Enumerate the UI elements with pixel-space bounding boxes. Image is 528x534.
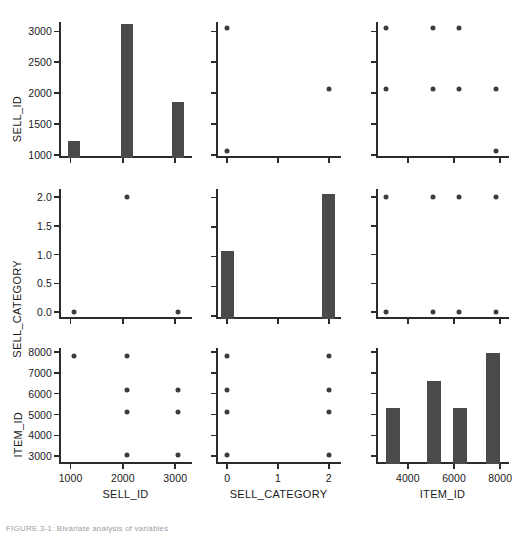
y-tick xyxy=(211,256,216,258)
x-tick-label: 3000 xyxy=(163,472,187,484)
scatter-point xyxy=(225,148,230,153)
x-axis-title: SELL_CATEGORY xyxy=(230,488,328,500)
plot-area xyxy=(376,189,509,319)
y-axis-line xyxy=(376,348,378,464)
panel-sell_category-vs-sell_id: 0.00.51.01.52.0SELL_CATEGORY xyxy=(59,189,192,319)
plot-area xyxy=(376,22,509,158)
scatter-point xyxy=(225,354,230,359)
scatter-point xyxy=(72,354,77,359)
scatter-point xyxy=(456,310,461,315)
x-tick-label: 0 xyxy=(224,472,230,484)
panel-sell_category-vs-sell_category xyxy=(216,189,341,319)
y-tick xyxy=(54,351,59,353)
y-axis-line xyxy=(376,22,378,158)
y-tick xyxy=(211,92,216,94)
x-tick-label: 2000 xyxy=(111,472,135,484)
x-tick xyxy=(453,158,455,163)
y-tick xyxy=(211,154,216,156)
scatter-point xyxy=(431,195,436,200)
y-tick-label: 1000 xyxy=(28,149,52,161)
scatter-point xyxy=(456,195,461,200)
y-tick xyxy=(371,414,376,416)
y-tick xyxy=(371,225,376,227)
x-tick xyxy=(70,158,72,163)
scatter-point xyxy=(326,354,331,359)
panel-sell_category-vs-item_id xyxy=(376,189,509,319)
y-tick xyxy=(54,31,59,33)
x-axis-title: SELL_ID xyxy=(102,488,148,500)
y-axis-line xyxy=(216,189,218,319)
y-tick xyxy=(371,61,376,63)
scatter-point xyxy=(124,410,129,415)
y-axis-line xyxy=(216,22,218,158)
x-tick-label: 2 xyxy=(326,472,332,484)
y-tick-label: 8000 xyxy=(28,346,52,358)
scatter-point xyxy=(326,387,331,392)
scatter-point xyxy=(431,310,436,315)
scatter-point xyxy=(124,387,129,392)
x-tick xyxy=(407,158,409,163)
y-tick xyxy=(54,455,59,457)
scatter-point xyxy=(225,387,230,392)
y-tick xyxy=(54,92,59,94)
x-tick xyxy=(328,158,330,163)
panel-sell_id-vs-sell_category xyxy=(216,22,341,158)
x-tick-label: 1 xyxy=(275,472,281,484)
y-tick xyxy=(54,225,59,227)
y-tick xyxy=(54,435,59,437)
scatter-point xyxy=(493,195,498,200)
y-axis-title: SELL_ID xyxy=(11,119,23,165)
y-tick xyxy=(54,123,59,125)
scatter-point xyxy=(225,453,230,458)
histogram-bar xyxy=(427,381,441,464)
y-tick xyxy=(211,435,216,437)
panel-item_id-vs-sell_id: 300040005000600070008000100020003000SELL… xyxy=(59,348,192,464)
scatter-point xyxy=(175,453,180,458)
y-tick-label: 0.5 xyxy=(37,277,52,289)
scatter-point xyxy=(175,310,180,315)
figure-pairplot: 10001500200025003000SELL_ID0.00.51.01.52… xyxy=(0,0,528,534)
panel-item_id-vs-item_id: 400060008000ITEM_ID xyxy=(376,348,509,464)
x-axis-line xyxy=(59,462,192,464)
y-tick-label: 5000 xyxy=(28,409,52,421)
histogram-bar xyxy=(68,141,80,158)
y-tick-label: 4000 xyxy=(28,429,52,441)
scatter-point xyxy=(383,310,388,315)
scatter-point xyxy=(456,26,461,31)
x-tick xyxy=(407,464,409,469)
scatter-point xyxy=(431,86,436,91)
pairplot-grid: 10001500200025003000SELL_ID0.00.51.01.52… xyxy=(0,0,528,534)
y-tick xyxy=(211,197,216,199)
y-tick-label: 1.0 xyxy=(37,249,52,261)
x-tick xyxy=(453,319,455,324)
y-tick xyxy=(54,196,59,198)
x-tick xyxy=(499,158,501,163)
x-axis-line xyxy=(376,156,509,158)
scatter-point xyxy=(326,453,331,458)
scatter-point xyxy=(124,195,129,200)
y-tick-label: 2000 xyxy=(28,87,52,99)
y-tick-label: 2500 xyxy=(28,56,52,68)
y-tick xyxy=(211,414,216,416)
y-tick-label: 2.0 xyxy=(37,191,52,203)
histogram-bar xyxy=(453,408,467,464)
y-axis-line xyxy=(59,189,61,319)
y-tick xyxy=(211,315,216,317)
y-axis-line xyxy=(59,348,61,464)
y-tick xyxy=(211,286,216,288)
plot-area xyxy=(216,189,341,319)
histogram-bar xyxy=(221,251,234,319)
y-tick xyxy=(371,372,376,374)
plot-area: 0.00.51.01.52.0SELL_CATEGORY xyxy=(59,189,192,319)
x-axis-line xyxy=(376,317,509,319)
x-tick xyxy=(226,158,228,163)
y-tick xyxy=(211,455,216,457)
y-tick xyxy=(371,123,376,125)
x-tick xyxy=(226,464,228,469)
y-tick-label: 7000 xyxy=(28,367,52,379)
y-tick xyxy=(371,393,376,395)
histogram-bar xyxy=(386,408,400,464)
y-tick xyxy=(211,226,216,228)
x-tick-label: 1000 xyxy=(59,472,83,484)
histogram-bar xyxy=(322,194,335,319)
